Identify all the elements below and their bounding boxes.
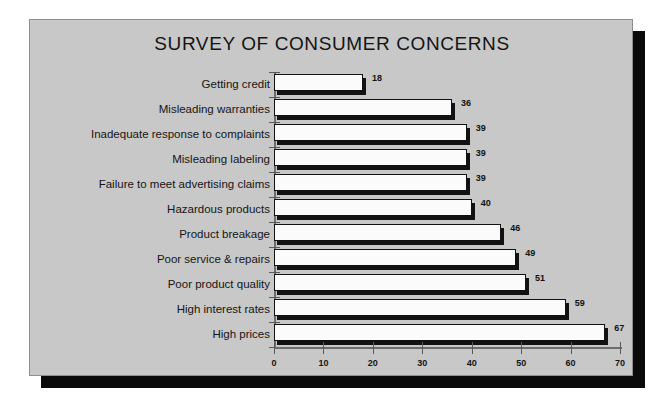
bar-row: 46 (274, 224, 621, 249)
bar[interactable] (274, 149, 467, 166)
y-axis-tick (269, 172, 280, 173)
y-axis-tick (269, 247, 280, 248)
bar[interactable] (274, 324, 605, 341)
bar-value-label: 67 (614, 323, 624, 333)
x-axis-tick (274, 342, 275, 354)
bar-row: 51 (274, 274, 621, 299)
x-axis-tick (323, 342, 324, 354)
x-axis-tick (521, 342, 522, 354)
x-axis-tick (373, 342, 374, 354)
category-label: Hazardous products (40, 203, 270, 215)
x-axis-tick-label: 30 (417, 358, 427, 368)
bar[interactable] (274, 74, 363, 91)
x-axis-tick-label: 60 (566, 358, 576, 368)
bar-value-label: 39 (476, 123, 486, 133)
bar[interactable] (274, 274, 526, 291)
bar-value-label: 49 (525, 248, 535, 258)
category-label: Getting credit (40, 78, 270, 90)
category-axis-labels: Getting creditMisleading warrantiesInade… (38, 72, 270, 347)
chart-screenshot: SURVEY OF CONSUMER CONCERNS Getting cred… (0, 0, 669, 402)
bar-value-label: 59 (575, 298, 585, 308)
x-axis-tick-label: 20 (368, 358, 378, 368)
x-axis-tick-label: 70 (615, 358, 625, 368)
bar-value-label: 18 (372, 73, 382, 83)
bar-row: 59 (274, 299, 621, 324)
bar-value-label: 51 (535, 273, 545, 283)
bar-row: 67 (274, 324, 621, 349)
y-axis-tick (269, 97, 280, 98)
bar-row: 39 (274, 174, 621, 199)
x-axis-tick (620, 342, 621, 354)
bar[interactable] (274, 299, 566, 316)
category-label: Product breakage (40, 228, 270, 240)
bar-series: 1836393939404649515967 (274, 72, 621, 347)
chart-panel: SURVEY OF CONSUMER CONCERNS Getting cred… (29, 19, 633, 376)
category-label: Misleading labeling (40, 153, 270, 165)
x-axis-tick (472, 342, 473, 354)
category-label: Poor product quality (40, 278, 270, 290)
bar[interactable] (274, 174, 467, 191)
y-axis-tick (269, 72, 280, 73)
x-axis-tick (571, 342, 572, 354)
x-axis-tick-label: 50 (516, 358, 526, 368)
y-axis-tick (269, 197, 280, 198)
bar-value-label: 46 (510, 223, 520, 233)
chart-title: SURVEY OF CONSUMER CONCERNS (30, 33, 634, 55)
y-axis-tick (269, 147, 280, 148)
y-axis-tick (269, 272, 280, 273)
bar[interactable] (274, 249, 516, 266)
bar-row: 36 (274, 99, 621, 124)
bar-value-label: 40 (481, 198, 491, 208)
y-axis-tick (269, 322, 280, 323)
bar-value-label: 36 (461, 98, 471, 108)
x-axis-tick (422, 342, 423, 354)
category-label: Poor service & repairs (40, 253, 270, 265)
plot-area: 1836393939404649515967 (274, 72, 621, 347)
bar[interactable] (274, 199, 472, 216)
category-label: Failure to meet advertising claims (40, 178, 270, 190)
bar[interactable] (274, 124, 467, 141)
category-label: Misleading warranties (40, 103, 270, 115)
category-label: Inadequate response to complaints (40, 128, 270, 140)
x-axis-tick-label: 40 (467, 358, 477, 368)
y-axis-tick (269, 222, 280, 223)
bar-row: 39 (274, 124, 621, 149)
bar-row: 39 (274, 149, 621, 174)
bar-value-label: 39 (476, 173, 486, 183)
bar-row: 49 (274, 249, 621, 274)
x-axis-tick-label: 0 (271, 358, 276, 368)
x-axis-tick-label: 10 (318, 358, 328, 368)
bar-row: 40 (274, 199, 621, 224)
bar[interactable] (274, 99, 452, 116)
category-label: High prices (40, 328, 270, 340)
bar[interactable] (274, 224, 501, 241)
bar-row: 18 (274, 74, 621, 99)
category-label: High interest rates (40, 303, 270, 315)
y-axis-tick (269, 297, 280, 298)
bar-value-label: 39 (476, 148, 486, 158)
x-axis: 010203040506070 (274, 347, 626, 377)
y-axis-tick (269, 122, 280, 123)
